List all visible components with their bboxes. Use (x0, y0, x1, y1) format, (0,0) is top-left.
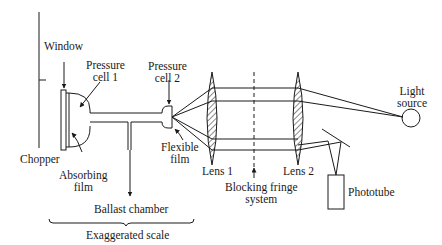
label-chopper: Chopper (20, 153, 60, 165)
label-blocking-fringe-system: Blocking fringe system (225, 181, 298, 205)
interferometer-diagram: Window Pressure cell 1 Pressure cell 2 C… (0, 0, 442, 245)
label-pressure-cell-1: Pressure cell 1 (86, 59, 125, 83)
light-source-circle (402, 109, 420, 127)
pressure-cell-1-top (69, 93, 90, 113)
label-exaggerated-scale: Exaggerated scale (86, 229, 169, 241)
label-absorbing-film: Absorbing film (59, 169, 108, 193)
window-plate (61, 90, 66, 150)
label-ballast-chamber: Ballast chamber (94, 203, 168, 215)
label-lens-1: Lens 1 (202, 165, 233, 177)
diagram-drawing (0, 0, 442, 245)
lens-1 (207, 72, 217, 165)
phototube-box (328, 175, 344, 209)
pressure-cell-2 (162, 106, 172, 128)
label-lens-2: Lens 2 (283, 165, 314, 177)
label-flexible-film: Flexible film (161, 141, 199, 165)
label-window: Window (44, 40, 83, 52)
label-pressure-cell-2: Pressure cell 2 (148, 60, 187, 84)
label-phototube: Phototube (348, 186, 395, 198)
pressure-cell-1-bottom (69, 126, 90, 147)
lens-2 (293, 72, 303, 165)
scale-brace (49, 219, 194, 226)
label-light-source: Light source (397, 85, 427, 109)
